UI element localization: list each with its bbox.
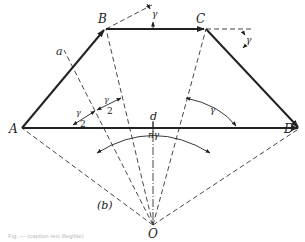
svg-text:2: 2 <box>107 106 113 116</box>
label-side-a: a <box>56 45 63 58</box>
label-D: D <box>283 122 294 136</box>
panel-label: (b) <box>97 199 113 212</box>
figure-caption: Fig. — (caption text illegible) <box>8 233 298 241</box>
label-n-gamma: nγ <box>148 130 160 140</box>
polygon-vector-diagram: A B C D O a d γ γ γ 2 γ 2 nγ γ (b) <box>0 0 305 242</box>
label-gamma-half-left: γ 2 <box>76 108 86 129</box>
label-C: C <box>196 12 205 26</box>
label-gamma-B: γ <box>152 9 158 19</box>
label-gamma-right: γ <box>210 105 216 115</box>
label-gamma-C: γ <box>246 35 252 45</box>
label-chord-d: d <box>150 110 157 123</box>
polygon-sides <box>22 29 298 128</box>
label-B: B <box>97 12 107 26</box>
svg-text:2: 2 <box>80 119 86 129</box>
label-A: A <box>8 122 18 136</box>
svg-text:γ: γ <box>76 108 81 117</box>
svg-text:γ: γ <box>104 95 109 104</box>
radial-dashed-lines <box>22 5 300 225</box>
